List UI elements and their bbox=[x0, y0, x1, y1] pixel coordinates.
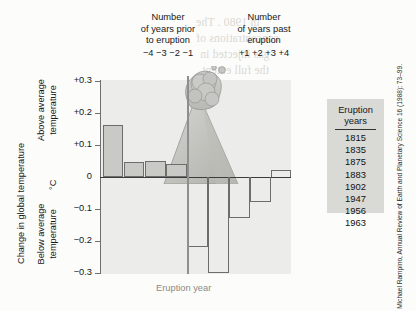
axis-title-change-in-global-temperature: Change in global temperature bbox=[16, 143, 26, 264]
eruption-year-label: Eruption year bbox=[156, 283, 211, 293]
header-prior-line2: of years prior bbox=[118, 24, 218, 36]
header-prior-line3: to eruption bbox=[118, 35, 218, 47]
y-tick-label: −0.1 bbox=[58, 203, 92, 213]
table-row: 1902 bbox=[327, 181, 384, 193]
bar-minus-2 bbox=[145, 161, 166, 177]
table-row: 1947 bbox=[327, 193, 384, 205]
y-tick-label: 0 bbox=[58, 171, 92, 181]
table-row: 1875 bbox=[327, 156, 384, 168]
header-past-line1: Number bbox=[214, 12, 314, 24]
table-row: 1963 bbox=[327, 217, 384, 229]
bar-plus-2 bbox=[229, 177, 250, 219]
y-tick-label: +0.1 bbox=[58, 139, 92, 149]
bar-plus-1 bbox=[208, 177, 229, 273]
table-row: 1883 bbox=[327, 169, 384, 181]
y-tick bbox=[95, 273, 100, 274]
header-past-line3: eruption bbox=[214, 35, 314, 47]
y-tick bbox=[95, 209, 100, 210]
header-past-line2: of years past bbox=[214, 24, 314, 36]
years-table-title-line1: Eruption bbox=[327, 99, 384, 116]
above-average-label-line1: Above average bbox=[36, 65, 47, 155]
years-table-divider bbox=[335, 129, 376, 130]
eruption-years-table: Eruption years 1815 1835 1875 1883 1902 … bbox=[327, 99, 384, 213]
header-past-ticks: +1 +2 +3 +4 bbox=[214, 48, 314, 58]
y-tick-label: +0.2 bbox=[58, 107, 92, 117]
bar-eruption-year bbox=[187, 177, 208, 247]
y-tick-label: +0.3 bbox=[58, 75, 92, 85]
y-tick bbox=[95, 145, 100, 146]
bar-minus-4 bbox=[103, 125, 123, 176]
below-average-label-line1: Below average bbox=[36, 188, 47, 280]
bar-minus-3 bbox=[124, 162, 144, 176]
y-tick bbox=[95, 113, 100, 114]
table-row: 1815 bbox=[327, 132, 384, 144]
bar-plus-3 bbox=[250, 177, 271, 203]
years-table-title-line2: years bbox=[327, 116, 384, 127]
figure-page: in 1980 . The concentrations of gas inje… bbox=[0, 0, 416, 311]
y-tick bbox=[95, 81, 100, 82]
header-prior-line1: Number bbox=[118, 12, 218, 24]
figure-credit: Michael Rampino, Annual Review of Earth … bbox=[396, 64, 403, 309]
y-tick-label: −0.3 bbox=[58, 267, 92, 277]
bleed-text: the full extent bbox=[202, 64, 269, 76]
header-prior-ticks: −4 −3 −2 −1 bbox=[118, 48, 218, 58]
bar-plus-4 bbox=[271, 170, 291, 176]
table-row: 1835 bbox=[327, 144, 384, 156]
eruption-year-marker bbox=[187, 76, 189, 274]
table-row: 1956 bbox=[327, 205, 384, 217]
bar-minus-1 bbox=[166, 164, 187, 177]
y-tick bbox=[95, 241, 100, 242]
y-tick-label: −0.2 bbox=[58, 235, 92, 245]
